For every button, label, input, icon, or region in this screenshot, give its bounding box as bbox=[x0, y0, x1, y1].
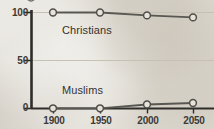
muslims-marker-1900 bbox=[50, 105, 57, 112]
x-tick-label-1950: 1950 bbox=[83, 115, 119, 126]
series-christians bbox=[50, 9, 197, 21]
muslims-marker-1950 bbox=[97, 105, 104, 112]
y-tick-label-100: 100 bbox=[12, 7, 28, 18]
x-tick-label-1900: 1900 bbox=[36, 115, 72, 126]
x-tick-label-2000: 2000 bbox=[130, 115, 166, 126]
muslims-line bbox=[53, 103, 193, 108]
christians-marker-2050 bbox=[190, 14, 197, 21]
christians-marker-1900 bbox=[50, 9, 57, 16]
muslims-marker-2000 bbox=[144, 101, 151, 108]
muslims-marker-2050 bbox=[190, 100, 197, 107]
christians-marker-2000 bbox=[144, 12, 151, 19]
x-tick-label-2050: 2050 bbox=[176, 115, 212, 126]
y-tick-label-50: 50 bbox=[17, 55, 28, 66]
chart-screenshot: 100 50 0 1900 1950 2000 2050 Christians … bbox=[0, 0, 214, 129]
line-chart-plot bbox=[0, 0, 214, 129]
y-tick-label-0: 0 bbox=[23, 102, 28, 113]
series-label-muslims: Muslims bbox=[62, 84, 103, 96]
christians-line bbox=[53, 13, 193, 18]
cropped-marker-icon bbox=[27, 0, 35, 1]
series-label-christians: Christians bbox=[62, 24, 112, 36]
gridlines bbox=[31, 13, 214, 61]
christians-marker-1950 bbox=[97, 9, 104, 16]
series-muslims bbox=[50, 100, 197, 112]
